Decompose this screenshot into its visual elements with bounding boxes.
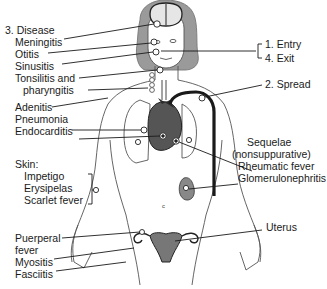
right-lung (182, 104, 196, 158)
label-pneumonia: Pneumonia (15, 113, 68, 125)
label-tonsilitis: Tonsilitis and (15, 72, 75, 84)
label-nonsuppurative: (nonsuppurative) (232, 148, 311, 160)
label-glomerulonephritis: Glomerulonephritis (238, 172, 326, 184)
label-endocarditis: Endocarditis (15, 125, 73, 137)
label-meningitis: Meningitis (15, 36, 62, 48)
label-spread: 2. Spread (265, 78, 311, 90)
label-skin-header: Skin: (15, 158, 38, 170)
label-scarlet-fever: Scarlet fever (24, 194, 83, 206)
label-adenitis: Adenitis (15, 101, 52, 113)
label-uterus: Uterus (266, 221, 297, 233)
label-fasciitis: Fasciitis (15, 268, 53, 280)
label-entry: 1. Entry (265, 38, 301, 50)
label-otitis: Otitis (15, 48, 39, 60)
label-exit: 4. Exit (265, 52, 294, 64)
label-pharyngitis: pharyngitis (23, 84, 74, 96)
label-erysipelas: Erysipelas (24, 182, 72, 194)
uterus (150, 233, 182, 262)
label-sinusitis: Sinusitis (15, 60, 54, 72)
label-puerperal: Puerperal (15, 232, 61, 244)
label-fever: fever (15, 244, 38, 256)
streptococcal-infection-diagram: c (0, 0, 327, 289)
label-sequelae: Sequelae (247, 136, 291, 148)
label-rheumatic-fever: Rheumatic fever (238, 160, 314, 172)
label-disease-header: 3. Disease (5, 24, 55, 36)
svg-text:c: c (162, 203, 165, 209)
label-myositis: Myositis (15, 256, 53, 268)
label-impetigo: Impetigo (24, 170, 64, 182)
lymph-nodes (150, 73, 155, 93)
